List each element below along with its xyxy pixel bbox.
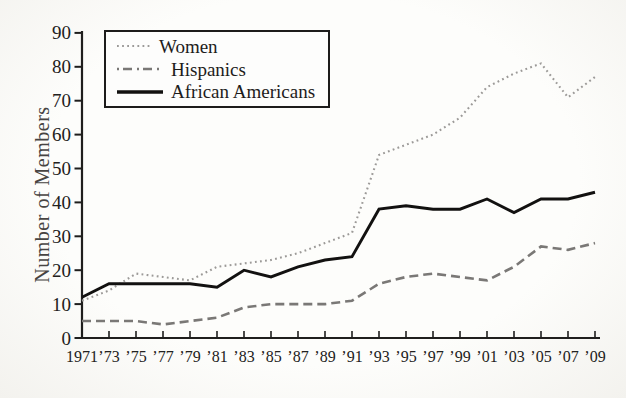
hispanics-dashed-line-icon <box>116 65 164 73</box>
legend-item-african-americans: African Americans <box>116 80 328 103</box>
x-tick-label: ’81 <box>206 348 227 365</box>
x-tick-label: ’97 <box>422 348 443 365</box>
y-tick-label: 20 <box>52 260 71 281</box>
legend-item-hispanics: Hispanics <box>116 58 328 81</box>
y-tick-label: 10 <box>52 294 71 315</box>
legend-label-hispanics: Hispanics <box>171 60 246 79</box>
chart-figure: 01020304050607080901971’73’75’77’79’81’8… <box>0 0 626 398</box>
x-tick-label: ’73 <box>98 348 119 365</box>
x-tick-label: ’77 <box>152 348 173 365</box>
x-tick-label: ’87 <box>287 348 308 365</box>
y-tick-label: 30 <box>52 226 71 247</box>
african-americans-solid-line-icon <box>116 88 164 96</box>
x-tick-label: ’79 <box>179 348 200 365</box>
y-tick-label: 60 <box>52 124 71 145</box>
legend-item-women: Women <box>116 35 328 58</box>
x-tick-label: ’83 <box>233 348 254 365</box>
x-tick-label: ’07 <box>557 348 578 365</box>
x-tick-label: ’93 <box>368 348 389 365</box>
y-tick-label: 40 <box>52 192 71 213</box>
legend-label-women: Women <box>159 37 218 56</box>
women-dotted-line-icon <box>116 42 152 50</box>
x-tick-label: ’85 <box>260 348 281 365</box>
y-axis-title: Number of Members <box>31 65 54 325</box>
x-tick-label: ’03 <box>503 348 524 365</box>
y-tick-label: 70 <box>52 90 71 111</box>
x-tick-label: ’95 <box>395 348 416 365</box>
legend-label-african-americans: African Americans <box>171 82 315 101</box>
x-tick-label: ’89 <box>314 348 335 365</box>
x-tick-label: ’05 <box>530 348 551 365</box>
series-line-african-americans <box>82 192 595 297</box>
x-tick-label: ’91 <box>341 348 362 365</box>
x-tick-label: 1971 <box>66 348 98 365</box>
y-tick-label: 90 <box>52 22 71 43</box>
y-tick-label: 50 <box>52 158 71 179</box>
y-tick-label: 80 <box>52 56 71 77</box>
x-tick-label: ’01 <box>476 348 497 365</box>
x-tick-label: ’75 <box>125 348 146 365</box>
x-tick-label: ’99 <box>449 348 470 365</box>
x-tick-label: ’09 <box>584 348 605 365</box>
y-tick-label: 0 <box>62 328 72 349</box>
legend: Women Hispanics African Americans <box>104 30 330 108</box>
